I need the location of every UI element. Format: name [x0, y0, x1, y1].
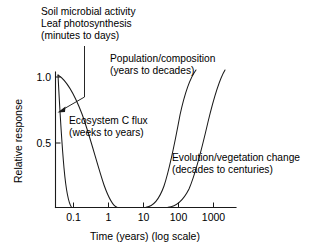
curve-evolution-vegetation-change — [168, 70, 225, 207]
x-tick-label-0.1: 0.1 — [66, 211, 81, 223]
curve-soil-microbial-leaf-photosynthesis — [58, 75, 72, 207]
x-tick-marks — [74, 203, 214, 208]
x-tick-label-100: 100 — [170, 211, 188, 223]
annotation-population-composition: Population/composition (years to decades… — [110, 53, 215, 76]
annotation-population-line2: (years to decades) — [110, 65, 194, 76]
annotation-ecosystem-line1: Ecosystem C flux — [69, 115, 148, 126]
annotation-ecosystem-line2: (weeks to years) — [69, 127, 144, 138]
annotation-fast-processes: Soil microbial activity Leaf photosynthe… — [41, 6, 136, 41]
x-tick-label-1: 1 — [106, 211, 112, 223]
annotation-evolution-line2: (decades to centuries) — [172, 164, 273, 175]
figure-container: 1.0 0.5 0.1 1 10 100 1000 Time (years) (… — [0, 0, 319, 251]
x-tick-label-10: 10 — [138, 211, 150, 223]
curve-ecosystem-c-flux — [58, 75, 117, 207]
annotation-population-line1: Population/composition — [110, 53, 215, 64]
annotation-fast-line3: (minutes to days) — [41, 30, 119, 41]
annotation-fast-line1: Soil microbial activity — [41, 6, 136, 17]
y-axis-title: Relative response — [12, 99, 24, 183]
relative-response-log-time-chart: 1.0 0.5 0.1 1 10 100 1000 Time (years) (… — [0, 0, 319, 251]
annotation-evolution-line1: Evolution/vegetation change — [172, 152, 300, 163]
axis-group — [56, 72, 237, 208]
x-axis-title: Time (years) (log scale) — [90, 230, 200, 242]
fast-process-leader — [58, 46, 85, 113]
curve-population-composition — [146, 70, 196, 207]
y-tick-label-1: 1.0 — [36, 71, 51, 83]
annotation-evolution-vegetation-change: Evolution/vegetation change (decades to … — [172, 152, 300, 175]
curves-group — [58, 70, 225, 207]
annotation-fast-line2: Leaf photosynthesis — [41, 18, 132, 29]
x-tick-label-1000: 1000 — [202, 211, 226, 223]
annotation-ecosystem-c-flux: Ecosystem C flux (weeks to years) — [69, 115, 148, 138]
y-tick-label-0.5: 0.5 — [36, 137, 51, 149]
fast-process-leader-line — [62, 46, 85, 110]
fast-process-arrow-head — [58, 107, 66, 113]
